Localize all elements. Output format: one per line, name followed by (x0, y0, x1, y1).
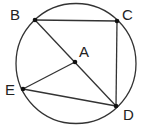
label-b: B (10, 6, 20, 23)
geometry-diagram: A B C D E (0, 0, 142, 133)
point-a (73, 60, 78, 65)
label-d: D (123, 106, 134, 123)
segment-ae (23, 62, 75, 89)
segments (23, 20, 117, 106)
segment-bc (35, 20, 117, 21)
point-d (114, 104, 119, 109)
segment-cd (116, 21, 117, 106)
label-c: C (122, 6, 133, 23)
point-c (115, 19, 120, 24)
label-e: E (5, 81, 15, 98)
label-a: A (79, 43, 89, 60)
point-e (21, 87, 26, 92)
point-b (33, 18, 38, 23)
